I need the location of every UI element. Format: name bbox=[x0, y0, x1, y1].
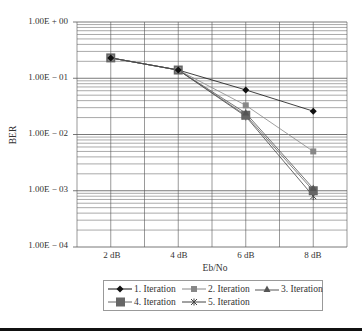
legend-item-iteration-5: 5. Iteration bbox=[182, 297, 250, 307]
ytick-label: 1.00E − 01 bbox=[0, 72, 68, 82]
diamond-marker-icon bbox=[108, 284, 132, 294]
legend-item-iteration-2: 2. Iteration bbox=[182, 284, 250, 294]
triangle-marker-icon bbox=[255, 284, 279, 294]
large-square-marker-icon bbox=[108, 297, 132, 307]
xtick-label: 2 dB bbox=[92, 250, 132, 260]
ytick-label: 1.00E − 03 bbox=[0, 184, 68, 194]
data-point-marker bbox=[310, 108, 317, 115]
xtick-label: 6 dB bbox=[226, 250, 266, 260]
legend-item-iteration-1: 1. Iteration bbox=[108, 284, 176, 294]
data-point-marker bbox=[243, 102, 249, 108]
ytick-label: 1.00E − 04 bbox=[0, 240, 68, 250]
x-axis-label: Eb/No bbox=[180, 263, 250, 273]
square-marker-icon bbox=[182, 284, 206, 294]
data-point-marker bbox=[242, 86, 249, 93]
xtick-label: 8 dB bbox=[293, 250, 333, 260]
star-marker-icon bbox=[182, 297, 206, 307]
ytick-label: 1.00E + 00 bbox=[0, 16, 68, 26]
legend-item-iteration-4: 4. Iteration bbox=[108, 297, 176, 307]
legend-item-iteration-3: 3. Iteration bbox=[255, 284, 323, 294]
y-axis-label: BER bbox=[8, 120, 18, 150]
chart-legend: 1. Iteration 2. Iteration 3. Iteration 4… bbox=[103, 280, 323, 311]
xtick-label: 4 dB bbox=[159, 250, 199, 260]
data-point-marker bbox=[310, 148, 316, 154]
